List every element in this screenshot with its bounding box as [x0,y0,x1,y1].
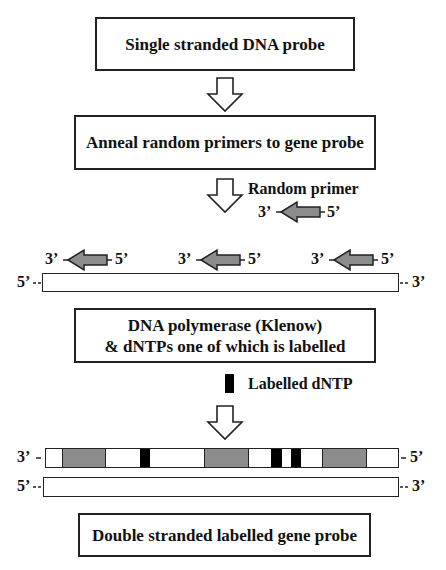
labelled-dntp-segment [140,449,150,467]
step-box-polymerase: DNA polymerase (Klenow) & dNTPs one of w… [74,308,376,363]
primer-5prime-label: 5’ [381,250,394,268]
down-arrow-icon [207,179,243,213]
strand-dash [400,282,410,284]
step-label-line2: & dNTPs one of which is labelled [105,336,346,357]
primer-segment [322,449,367,467]
step-label: Anneal random primers to gene probe [86,132,364,153]
template-strand [43,477,399,497]
primer-3prime-label: 3’ [178,250,191,268]
template-strand [42,273,399,292]
labelled-dntp-marker-icon [225,374,234,393]
step-box-anneal-primers: Anneal random primers to gene probe [74,115,376,170]
strand-dash [33,486,43,488]
primer-3prime-label: 3’ [45,250,58,268]
primer-5prime-label: 5’ [248,250,261,268]
random-primer-arrow-icon [276,201,332,223]
labelled-dntp-segment [291,449,301,467]
strand-3prime-label: 3’ [412,477,425,495]
random-primer-legend-label: Random primer [248,180,359,198]
random-primer-arrow-icon [63,249,119,271]
random-primer-arrow-icon [329,249,385,271]
strand-5prime-label: 5’ [410,448,423,466]
strand-3prime-label: 3’ [17,448,30,466]
step-label: Single stranded DNA probe [125,34,324,55]
labelled-dntp-legend-label: Labelled dNTP [248,375,352,393]
random-primer-arrow-icon [196,249,252,271]
strand-3prime-label: 3’ [412,273,425,291]
primer-5prime-label: 5’ [327,203,340,221]
primer-3prime-label: 3’ [258,203,271,221]
strand-dash [36,457,42,459]
primer-3prime-label: 3’ [311,250,324,268]
step-label-line1: DNA polymerase (Klenow) [128,315,323,336]
step-label: Double stranded labelled gene probe [92,525,357,546]
primer-segment [62,449,106,467]
strand-5prime-label: 5’ [17,477,30,495]
labelled-dntp-segment [271,449,282,467]
primer-segment [204,449,249,467]
down-arrow-icon [207,406,243,440]
down-arrow-icon [207,78,243,112]
strand-5prime-label: 5’ [17,273,30,291]
strand-dash [400,486,410,488]
step-box-single-stranded-probe: Single stranded DNA probe [95,17,355,71]
new-labelled-strand [45,448,399,468]
primer-5prime-label: 5’ [115,250,128,268]
strand-dash [401,457,407,459]
step-box-double-stranded-probe: Double stranded labelled gene probe [78,513,371,557]
